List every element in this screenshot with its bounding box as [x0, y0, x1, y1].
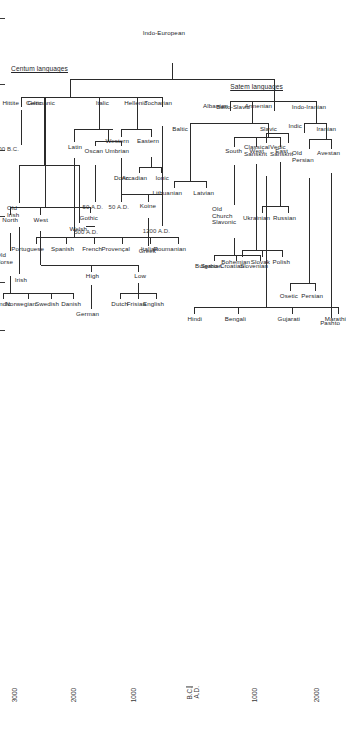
timeline-label-ad: A.D. [193, 687, 200, 699]
timeline-label-bc: B.C. [186, 686, 193, 699]
timeline-label-1000bc: 1000 [130, 688, 137, 702]
edge-marathi-stub [338, 307, 339, 314]
timeline-label-3000: 3000 [11, 688, 18, 702]
timeline-label-1000ad: 1000 [251, 688, 258, 702]
timeline-label-2000bc: 2000 [70, 688, 77, 702]
timeline-label-bc-ad: B.C. A.D. [186, 686, 200, 699]
timeline-label-2000ad: 2000 [313, 688, 320, 702]
